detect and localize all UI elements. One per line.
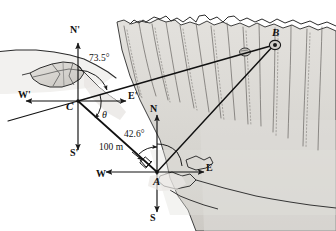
label-east: E [206, 163, 213, 173]
point-marker-C [76, 99, 79, 102]
label-west: W [96, 169, 106, 179]
label-west-prime: W' [18, 90, 31, 100]
label-south-prime: S' [70, 148, 78, 158]
label-east-prime: E' [128, 91, 137, 101]
label-south: S [150, 213, 156, 223]
label-point-B: B [272, 27, 279, 38]
label-angle-73-5: 73.5° [89, 54, 109, 64]
label-angle-theta: θ [102, 110, 107, 120]
label-point-C: C [66, 101, 73, 112]
figure-canvas: N' W' E' S' N E W S C A B 73.5° θ 42.6° … [0, 0, 336, 231]
point-marker-A [155, 170, 159, 174]
label-north: N [150, 104, 157, 114]
label-angle-42-6: 42.6° [124, 130, 144, 140]
canyon-survey-illustration [0, 0, 336, 231]
label-distance-100m: 100 m [99, 143, 123, 153]
label-point-A: A [153, 176, 160, 187]
label-north-prime: N' [70, 25, 80, 35]
point-marker-B [269, 40, 280, 49]
